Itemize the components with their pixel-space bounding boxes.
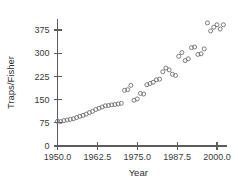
data-point xyxy=(161,70,165,74)
x-tick-label-1975.0: 1975.0 xyxy=(123,152,151,162)
data-point xyxy=(205,21,209,25)
y-axis-title: Traps/Fisher xyxy=(5,56,16,109)
y-tick-label-75: 75 xyxy=(39,118,49,128)
x-tick-label-2000.0: 2000.0 xyxy=(203,152,231,162)
y-tick-label-375: 375 xyxy=(34,25,49,35)
y-tick-label-0: 0 xyxy=(44,141,49,151)
data-point xyxy=(221,23,225,27)
y-tick-label-150: 150 xyxy=(34,95,49,105)
data-point xyxy=(202,47,206,51)
data-point xyxy=(218,27,222,31)
data-point xyxy=(209,29,213,33)
x-tick-label-1987.5: 1987.5 xyxy=(163,152,191,162)
data-point xyxy=(180,51,184,55)
x-tick-label-1950.0: 1950.0 xyxy=(44,152,72,162)
x-axis-title: Year xyxy=(129,167,148,178)
y-tick-label-225: 225 xyxy=(34,72,49,82)
data-point xyxy=(186,57,190,61)
scatter-chart: 0751502253003751950.01962.51975.01987.52… xyxy=(0,0,238,183)
data-point xyxy=(177,54,181,58)
data-point xyxy=(129,83,133,87)
plot-area: 0751502253003751950.01962.51975.01987.52… xyxy=(0,0,238,183)
y-tick-label-300: 300 xyxy=(34,48,49,58)
data-point xyxy=(215,23,219,27)
data-point xyxy=(167,68,171,72)
x-tick-label-1962.5: 1962.5 xyxy=(84,152,112,162)
data-points xyxy=(56,21,226,124)
